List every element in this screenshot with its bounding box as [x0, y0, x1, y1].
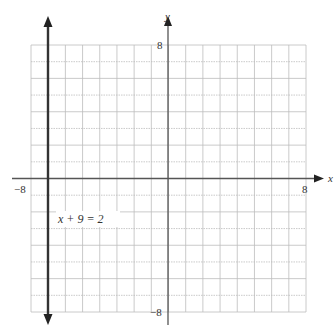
x-max-tick: 8	[302, 183, 308, 195]
x-min-tick: −8	[14, 183, 26, 195]
equation-label: x + 9 = 2	[57, 212, 104, 226]
coordinate-plane: y x 8 −8 −8 8 x + 9 = 2	[0, 0, 336, 325]
x-axis-arrow-icon	[314, 175, 324, 183]
y-min-tick: −8	[150, 306, 162, 318]
x-axis-label: x	[327, 172, 333, 184]
line-arrow-down-icon	[44, 314, 53, 325]
y-max-tick: 8	[157, 39, 163, 51]
y-axis-label: y	[164, 10, 170, 22]
line-arrow-up-icon	[44, 16, 53, 27]
